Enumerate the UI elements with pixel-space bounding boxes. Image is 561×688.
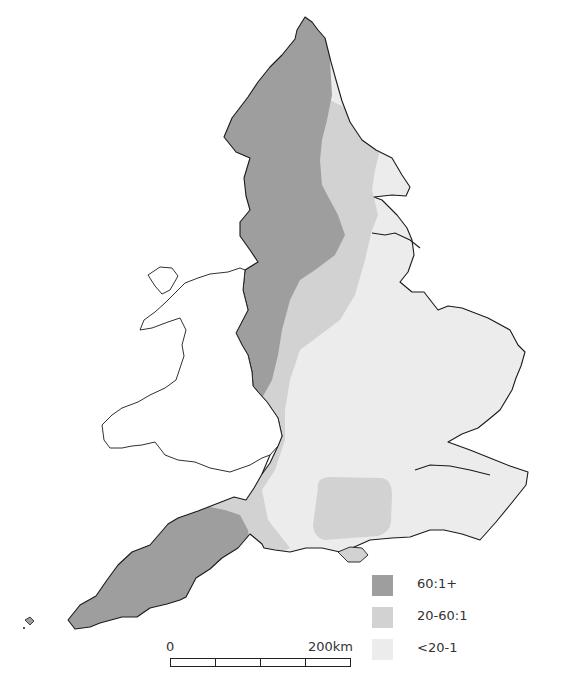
scale-bar-graphic [170,658,354,670]
isles-of-scilly [25,617,34,625]
england-landmass [50,0,528,640]
scale-end-label: 200km [308,639,353,654]
legend-item-low: <20-1 [372,639,393,660]
anglesey [148,267,178,294]
band-high-region-southwest [50,500,250,640]
legend-swatch-low [372,639,393,660]
legend-label-low: <20-1 [417,640,457,655]
band-mid-region-south [313,477,392,540]
legend-swatch-high [372,575,393,596]
legend-label-high: 60:1+ [417,576,457,591]
legend-label-mid: 20-60:1 [417,608,467,623]
isles-of-scilly-small [23,627,25,629]
legend-item-high: 60:1+ [372,575,393,596]
scale-start-label: 0 [166,639,174,654]
choropleth-map [0,0,561,688]
legend-item-mid: 20-60:1 [372,607,393,628]
legend-swatch-mid [372,607,393,628]
